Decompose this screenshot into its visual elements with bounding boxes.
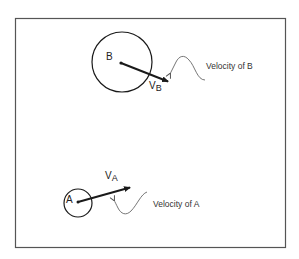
object-a	[64, 188, 147, 218]
velocity-diagram	[0, 0, 299, 259]
leader-squiggle-b	[170, 56, 205, 80]
velocity-symbol-b: V	[149, 80, 156, 91]
velocity-label-b: VB	[149, 81, 162, 91]
velocity-label-a: VA	[105, 171, 118, 181]
velocity-symbol-a: V	[105, 170, 112, 181]
point-label-a: A	[66, 195, 73, 205]
velocity-subscript-b: B	[156, 83, 162, 93]
leader-squiggle-a	[114, 192, 147, 214]
point-label-b: B	[106, 52, 113, 62]
caption-velocity-of-a: Velocity of A	[153, 200, 199, 209]
velocity-arrow-a	[78, 188, 130, 203]
velocity-arrow-b	[121, 63, 168, 82]
velocity-subscript-a: A	[112, 173, 118, 183]
caption-velocity-of-b: Velocity of B	[206, 62, 253, 71]
